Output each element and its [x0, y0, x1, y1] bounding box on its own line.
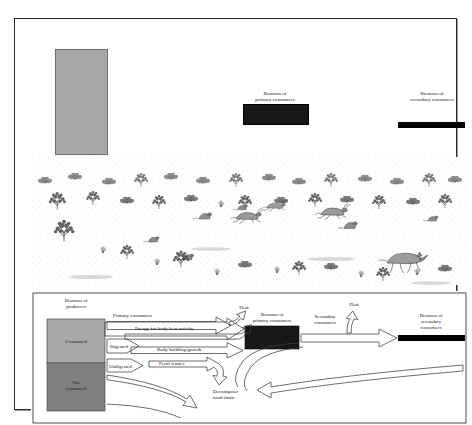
arrow-producers-bottom-sweep — [107, 404, 181, 418]
flow-secondary-title-line3: consumers — [420, 325, 441, 330]
energy-flow-diagram: Biomass of producers Consumed Not consum… — [31, 291, 468, 425]
arrow-secondary-return — [257, 365, 463, 398]
label-heat-right: Heat — [349, 302, 359, 307]
flow-consumed-label: Consumed — [65, 339, 87, 344]
label-digested: Digested — [110, 344, 128, 349]
flow-primary-title-line1: Biomass of — [261, 312, 284, 317]
biomass-primary-consumers-label: Biomass of primary consumers — [241, 91, 309, 103]
arrow-primary-return-1 — [235, 343, 299, 387]
label-decomposer-line1: Decomposer — [213, 389, 239, 394]
label-heat-left: Heat — [239, 305, 249, 310]
flow-producers-title-line2: producers — [66, 304, 86, 309]
flow-secondary-consumers-block — [398, 335, 465, 341]
label-secondary-consumers-line2: consumers — [314, 320, 335, 325]
habitat-drawing — [31, 157, 468, 285]
flow-not-consumed-label-line1: Not — [72, 380, 80, 385]
arrow-primary-return-2 — [244, 347, 303, 391]
label-body-building-growth: Body building/growth — [157, 347, 202, 352]
flow-producers-bar — [47, 319, 105, 411]
figure-frame: Biomass of producers Biomass of primary … — [14, 18, 457, 410]
flow-secondary-title-line2: secondary — [421, 319, 442, 324]
energy-flow-svg: Biomass of producers Consumed Not consum… — [31, 291, 468, 425]
label-primary-consumers: Primary consumers — [113, 313, 152, 318]
flow-primary-consumers-block — [245, 326, 299, 349]
arrow-heat-left — [229, 311, 246, 325]
biomass-secondary-consumers-label: Biomass of secondary consumers — [396, 91, 468, 103]
label-undigested: Undigested — [109, 364, 132, 369]
label-secondary-consumers-line1: Secondary — [314, 314, 336, 319]
label-fecal-wastes: Fecal wastes — [159, 361, 184, 366]
flow-not-consumed-label-line2: consumed — [66, 386, 87, 391]
biomass-producers-bar — [55, 49, 108, 155]
arrow-not-consumed-to-decomposer — [107, 375, 197, 408]
label-energy-body-heat: Energy for body heat activity — [135, 326, 194, 331]
flow-primary-title-line2: primary consumers — [253, 318, 292, 323]
arrow-heat-right — [346, 311, 357, 333]
label-decomposer-line2: food chain — [213, 395, 235, 400]
arrow-secondary-consumers — [301, 329, 397, 347]
biomass-primary-consumers-bar — [243, 104, 309, 125]
habitat-illustration — [31, 157, 468, 285]
biomass-secondary-consumers-bar — [398, 122, 465, 128]
flow-producers-title-line1: Biomass of — [65, 298, 88, 303]
flow-secondary-title-line1: Biomass of — [420, 313, 443, 318]
